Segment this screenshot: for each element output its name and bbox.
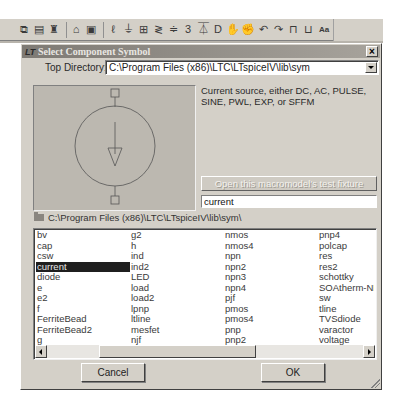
ground-icon[interactable]: ⏚ — [122, 23, 134, 37]
list-item[interactable]: pnp2 — [224, 335, 318, 346]
top-directory-value: C:\Program Files (x86)\LTC\LTspiceIV\lib… — [109, 62, 310, 73]
list-item[interactable]: ind — [130, 251, 224, 262]
list-item[interactable]: voltage — [318, 335, 374, 346]
current-path: C:\Program Files (x86)\LTC\LTspiceIV\lib… — [34, 212, 241, 223]
open-macromodel-test-fixture-button[interactable]: Open this macromodel's test fixture — [201, 176, 377, 191]
top-directory-label: Top Directory: — [45, 62, 107, 73]
inductor-icon[interactable]: 3 — [182, 23, 194, 37]
current-path-text: C:\Program Files (x86)\LTC\LTspiceIV\lib… — [48, 212, 241, 223]
list-column: g2hindind2LEDloadload2lpnpltlinemesfetnj… — [130, 230, 224, 347]
ok-button[interactable]: OK — [261, 363, 325, 382]
drag-icon[interactable]: ✊ — [242, 23, 254, 37]
component-icon[interactable]: D — [212, 23, 224, 37]
list-item[interactable]: npn3 — [224, 272, 318, 283]
list-item[interactable]: g — [36, 335, 130, 346]
dialog-titlebar[interactable]: LT Select Component Symbol × — [22, 45, 380, 58]
label-net-icon[interactable]: ⊞ — [137, 23, 149, 37]
resize-grip-icon[interactable] — [370, 378, 380, 388]
list-column: nmosnmos4npnnpn2npn3npn4pjfpmospmos4pnpp… — [224, 230, 318, 347]
find-icon[interactable]: ♜ — [48, 23, 60, 37]
top-directory-dropdown[interactable]: C:\Program Files (x86)\LTC\LTspiceIV\lib… — [105, 60, 379, 75]
folder-icon — [34, 214, 44, 221]
copy-icon[interactable]: ⧉ — [18, 23, 30, 37]
mirror-icon[interactable]: ⊔ — [302, 23, 314, 37]
chevron-down-icon[interactable] — [365, 62, 377, 73]
list-column: pnp4polcapresres2schottkySOAtherm-NMOSsw… — [318, 230, 374, 347]
toolbar-empty-area — [333, 19, 383, 41]
rotate-icon[interactable]: ⊓ — [287, 23, 299, 37]
list-item[interactable]: npn — [224, 251, 318, 262]
redo-icon[interactable]: ↷ — [272, 23, 284, 37]
resistor-icon[interactable]: ≷ — [152, 23, 164, 37]
list-item[interactable]: schottky — [318, 272, 374, 283]
toolbar-separator — [103, 22, 104, 38]
scrollbar-thumb[interactable] — [99, 345, 256, 358]
component-list-columns: bvcapcswcurrentdiodeee2fFerriteBeadFerri… — [36, 230, 374, 347]
cancel-button[interactable]: Cancel — [81, 363, 145, 382]
list-item[interactable]: res — [318, 251, 374, 262]
main-toolbar: ⧉▤♜⌂▣ℓ⏚⊞≷≑3⏄D✋✊↶↷⊓⊔Aaop — [0, 19, 383, 41]
list-item[interactable]: mesfet — [130, 325, 224, 336]
list-item[interactable]: pjf — [224, 293, 318, 304]
list-item[interactable]: njf — [130, 335, 224, 346]
list-item[interactable]: npn4 — [224, 283, 318, 294]
symbol-preview — [33, 85, 196, 211]
list-item[interactable]: pnp4 — [318, 230, 374, 241]
list-item[interactable]: e2 — [36, 293, 130, 304]
undo-icon[interactable]: ↶ — [257, 23, 269, 37]
list-item[interactable]: ltline — [130, 314, 224, 325]
horizontal-scrollbar[interactable] — [35, 345, 375, 358]
select-component-dialog: LT Select Component Symbol × Top Directo… — [20, 43, 382, 390]
list-item[interactable]: g2 — [130, 230, 224, 241]
toolbar-separator — [66, 22, 67, 38]
list-item[interactable]: bv — [36, 230, 130, 241]
component-list[interactable]: bvcapcswcurrentdiodeee2fFerriteBeadFerri… — [33, 228, 377, 360]
list-item[interactable]: csw — [36, 251, 130, 262]
list-item[interactable]: LED — [130, 272, 224, 283]
list-column: bvcapcswcurrentdiodeee2fFerriteBeadFerri… — [36, 230, 130, 347]
scroll-right-arrow-icon[interactable] — [363, 345, 375, 358]
list-item[interactable]: h — [130, 241, 224, 252]
dialog-title: Select Component Symbol — [38, 46, 150, 57]
list-item[interactable]: FerriteBead — [36, 314, 130, 325]
ltspice-app-icon: LT — [25, 47, 35, 57]
scroll-left-arrow-icon[interactable] — [35, 345, 47, 358]
close-button[interactable]: × — [366, 46, 378, 57]
list-item[interactable]: diode — [36, 272, 130, 283]
text-icon[interactable]: Aa — [317, 23, 331, 37]
print-icon[interactable]: ▣ — [85, 23, 97, 37]
wire-icon[interactable]: ℓ — [107, 23, 119, 37]
component-description: Current source, either DC, AC, PULSE, SI… — [201, 85, 379, 107]
move-icon[interactable]: ✋ — [227, 23, 239, 37]
component-name-input[interactable] — [201, 195, 377, 208]
current-source-symbol-icon — [34, 86, 195, 210]
capacitor-icon[interactable]: ≑ — [167, 23, 179, 37]
list-item[interactable]: sw — [318, 293, 374, 304]
list-item[interactable]: load2 — [130, 293, 224, 304]
list-item[interactable]: pmos4 — [224, 314, 318, 325]
list-item[interactable]: FerriteBead2 — [36, 325, 130, 336]
list-item[interactable]: nmos — [224, 230, 318, 241]
list-item[interactable]: e — [36, 283, 130, 294]
list-item[interactable]: TVSdiode — [318, 314, 374, 325]
print-setup-icon[interactable]: ⌂ — [70, 23, 82, 37]
diode-icon[interactable]: ⏄ — [197, 23, 209, 37]
paste-icon[interactable]: ▤ — [33, 23, 45, 37]
